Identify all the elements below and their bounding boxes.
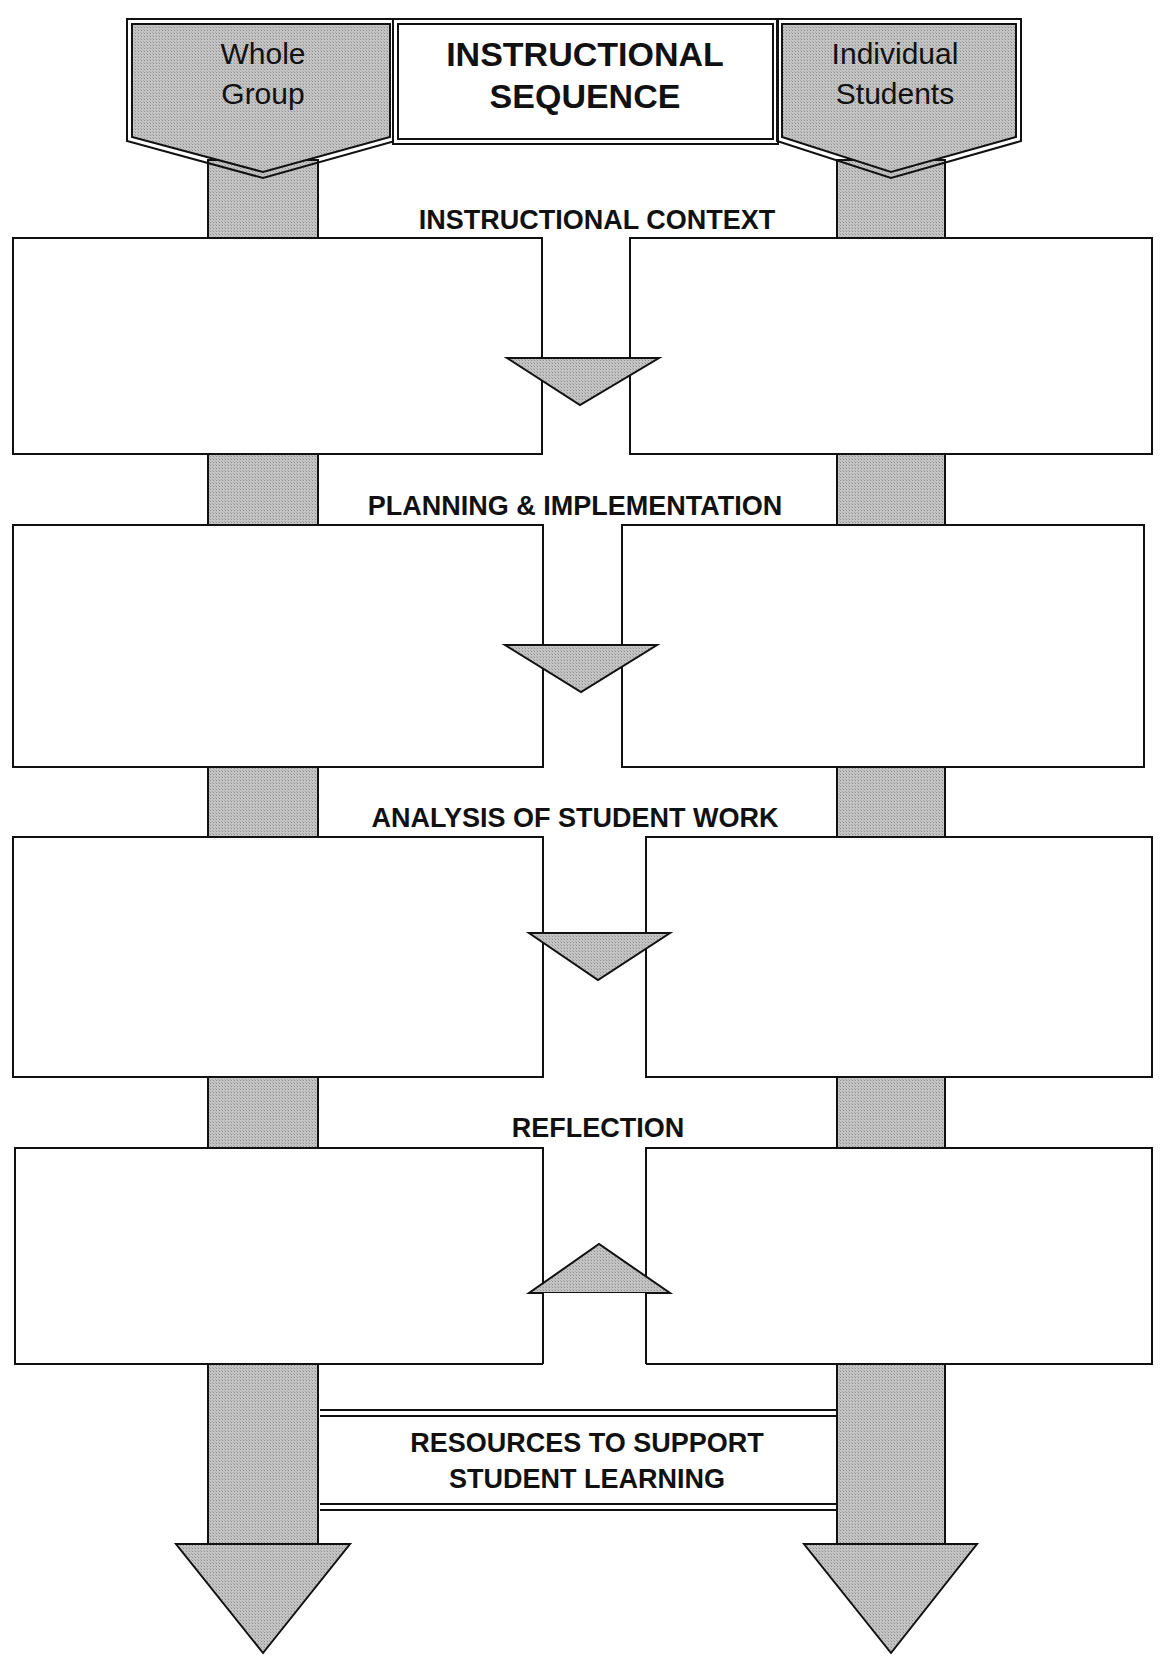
instructional-sequence-diagram: Whole Group INSTRUCTIONAL SEQUENCE Indiv… bbox=[0, 0, 1166, 1667]
section-label: ANALYSIS OF STUDENT WORK bbox=[371, 803, 779, 833]
title-line1: INSTRUCTIONAL bbox=[446, 35, 724, 73]
whole-group-label-line2: Group bbox=[221, 77, 304, 110]
resources-box: RESOURCES TO SUPPORT STUDENT LEARNING bbox=[320, 1410, 836, 1510]
individual-students-box[interactable] bbox=[646, 837, 1152, 1077]
individual-students-down-arrow-icon bbox=[804, 1544, 977, 1653]
individual-students-label-line2: Students bbox=[836, 77, 954, 110]
whole-group-box[interactable] bbox=[15, 1148, 543, 1364]
title-box: INSTRUCTIONAL SEQUENCE bbox=[393, 19, 778, 144]
individual-students-header: Individual Students bbox=[777, 19, 1021, 178]
whole-group-header: Whole Group bbox=[127, 19, 395, 178]
section-instructional-context: INSTRUCTIONAL CONTEXT bbox=[13, 205, 1152, 454]
whole-group-box[interactable] bbox=[13, 837, 543, 1077]
whole-group-box[interactable] bbox=[13, 238, 542, 454]
section-label: REFLECTION bbox=[512, 1113, 685, 1143]
individual-students-box[interactable] bbox=[630, 238, 1152, 454]
whole-group-box[interactable] bbox=[13, 525, 543, 767]
section-label: PLANNING & IMPLEMENTATION bbox=[368, 491, 782, 521]
individual-students-label-line1: Individual bbox=[832, 37, 959, 70]
section-planning-implementation: PLANNING & IMPLEMENTATION bbox=[13, 491, 1144, 767]
resources-label-line1: RESOURCES TO SUPPORT bbox=[410, 1428, 764, 1458]
resources-label-line2: STUDENT LEARNING bbox=[449, 1464, 725, 1494]
whole-group-label-line1: Whole bbox=[220, 37, 305, 70]
whole-group-down-arrow-icon bbox=[176, 1544, 350, 1653]
title-line2: SEQUENCE bbox=[490, 77, 681, 115]
section-reflection: REFLECTION bbox=[15, 1113, 1152, 1365]
individual-students-box[interactable] bbox=[622, 525, 1144, 767]
section-analysis-student-work: ANALYSIS OF STUDENT WORK bbox=[13, 803, 1152, 1077]
connector-stem bbox=[543, 1293, 646, 1365]
individual-students-box[interactable] bbox=[646, 1148, 1152, 1364]
section-label: INSTRUCTIONAL CONTEXT bbox=[419, 205, 776, 235]
